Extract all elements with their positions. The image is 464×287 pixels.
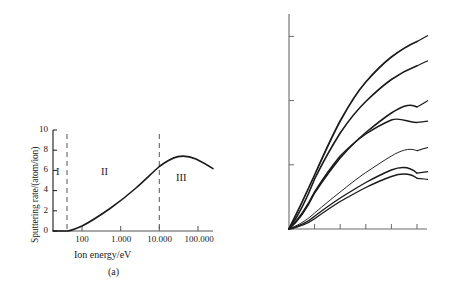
x-tick-label-a-10000: 10.000 [139, 234, 180, 244]
panel-a: 10 8 6 4 2 0 100 1.000 10.000 100.000 I … [0, 0, 232, 287]
curve-leaders [417, 36, 428, 180]
region-label-III: III [176, 172, 187, 183]
panel-b-plot [232, 0, 464, 287]
curve-al [289, 105, 417, 229]
x-ticks-b [315, 224, 417, 229]
caption-a: (a) [108, 266, 119, 277]
y-ticks-a [53, 130, 57, 231]
x-tick-label-a-1000: 1.000 [103, 234, 139, 244]
region-label-II: II [101, 166, 108, 177]
sputtering-yield-curve-a [53, 156, 213, 231]
panel-b: 3 2 1 0 200 400 600 800 1.000 Au Pt Al C… [232, 0, 464, 287]
x-ticks-a [82, 226, 198, 231]
curve-cr [289, 119, 417, 229]
x-tick-label-a-100000: 100.000 [176, 234, 222, 244]
curve-ti [289, 167, 417, 229]
y-tick-label-a-10: 10 [20, 124, 48, 134]
y-ticks-b [289, 36, 294, 229]
region-label-I: I [56, 166, 60, 177]
y-axis-title-a: Sputtering rate/(atom/ion) [30, 147, 40, 243]
curve-au [289, 42, 417, 230]
x-tick-label-a-100: 100 [67, 234, 97, 244]
x-axis-title-a: Ion energy/eV [74, 249, 131, 260]
sputtering-yield-figure: 10 8 6 4 2 0 100 1.000 10.000 100.000 I … [0, 0, 464, 287]
